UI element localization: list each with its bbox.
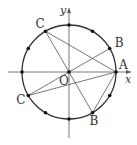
segment-A-C2 bbox=[28, 72, 116, 96]
division-point bbox=[67, 23, 71, 27]
x-axis-label: x bbox=[125, 73, 132, 86]
point-label-C2: C bbox=[16, 93, 25, 107]
division-point bbox=[26, 94, 30, 98]
division-point bbox=[20, 70, 24, 74]
point-label-A: A bbox=[118, 58, 128, 72]
division-point bbox=[67, 117, 71, 121]
division-point bbox=[44, 111, 48, 115]
y-axis-arrow-icon bbox=[67, 8, 71, 13]
diagram-canvas: ABCCB x y O bbox=[0, 0, 137, 145]
division-point bbox=[108, 94, 112, 98]
point-label-C1: C bbox=[36, 17, 45, 31]
y-axis-label: y bbox=[59, 4, 67, 17]
point-label-B2: B bbox=[90, 114, 99, 128]
division-point bbox=[108, 47, 112, 51]
division-point bbox=[26, 47, 30, 51]
point-labels: ABCCB bbox=[16, 17, 128, 127]
segment-A-B2 bbox=[93, 72, 117, 113]
segment-A-C1 bbox=[46, 31, 117, 72]
division-point bbox=[114, 70, 118, 74]
point-label-B1: B bbox=[115, 36, 124, 50]
division-point bbox=[91, 29, 95, 33]
origin-label: O bbox=[59, 74, 69, 88]
